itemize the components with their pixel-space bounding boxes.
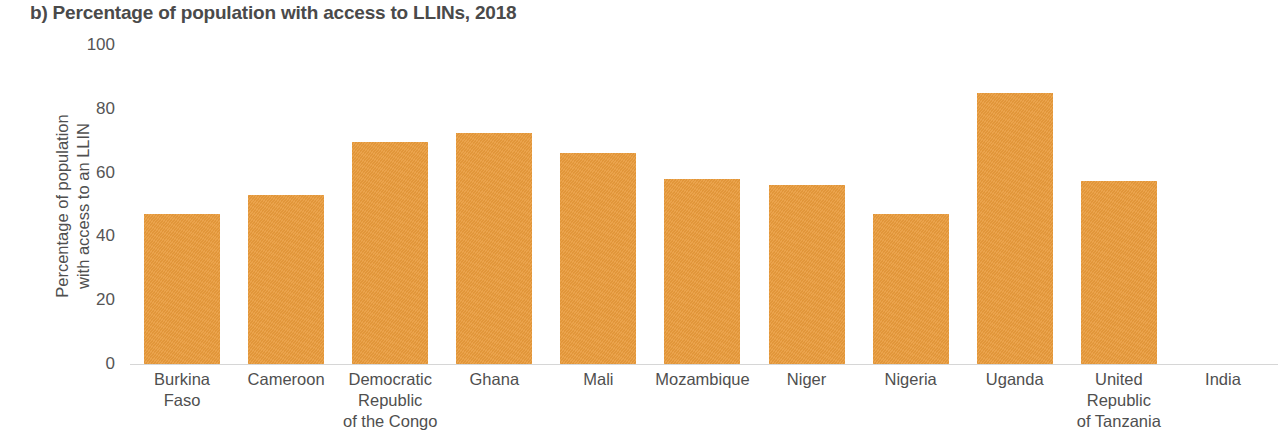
- y-tick-label: 40: [55, 227, 115, 244]
- x-category-label-line: of Tanzania: [1053, 411, 1185, 432]
- plot-area: [130, 45, 1275, 364]
- bar-slot: [859, 45, 963, 364]
- y-tick-label: 20: [55, 291, 115, 308]
- x-category-label-line: Republic: [1053, 390, 1185, 411]
- bar[interactable]: [664, 179, 740, 364]
- bar-slot: [234, 45, 338, 364]
- bar[interactable]: [977, 93, 1053, 364]
- y-tick-label: 80: [55, 100, 115, 117]
- y-tick-label: 60: [55, 164, 115, 181]
- bar[interactable]: [1081, 181, 1157, 364]
- y-tick-label: 100: [55, 36, 115, 53]
- bar[interactable]: [248, 195, 324, 364]
- bar[interactable]: [560, 153, 636, 364]
- y-tick-label: 0: [55, 355, 115, 372]
- bar[interactable]: [873, 214, 949, 364]
- bar-slot: [442, 45, 546, 364]
- bar-slot: [650, 45, 754, 364]
- bar[interactable]: [144, 214, 220, 364]
- bar-slot: [546, 45, 650, 364]
- bar-slot: [1067, 45, 1171, 364]
- bar[interactable]: [352, 142, 428, 364]
- x-category-label-line: of the Congo: [324, 411, 456, 432]
- bar-slot: [755, 45, 859, 364]
- x-category-label-line: Republic: [324, 390, 456, 411]
- chart-figure: b) Percentage of population with access …: [0, 0, 1283, 443]
- bar-slot: [338, 45, 442, 364]
- bar[interactable]: [769, 185, 845, 364]
- x-category-label-line: India: [1157, 369, 1283, 390]
- bar-slot: [130, 45, 234, 364]
- x-axis-line: [130, 364, 1278, 365]
- bar[interactable]: [456, 133, 532, 364]
- bar-slot: [963, 45, 1067, 364]
- x-category-label: India: [1157, 369, 1283, 390]
- x-category-label-line: Faso: [116, 390, 248, 411]
- y-axis-tick-labels: 100806040200: [0, 0, 120, 443]
- x-axis-category-labels: BurkinaFasoCameroonDemocraticRepublicof …: [130, 369, 1275, 443]
- bar-slot: [1171, 45, 1275, 364]
